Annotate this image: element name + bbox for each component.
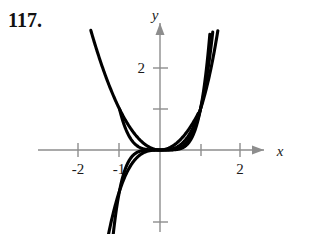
graph-figure: -2 -1 2 2 x y xyxy=(0,0,314,234)
labels-group: -2 -1 2 2 x y xyxy=(72,7,284,177)
x-tick-label--2: -2 xyxy=(72,161,85,177)
x-axis-label: x xyxy=(276,143,284,159)
axes-group xyxy=(38,23,264,232)
y-tick-label-2: 2 xyxy=(138,60,146,76)
curves-group xyxy=(91,30,218,234)
y-axis-arrowhead xyxy=(156,23,165,35)
curve-y-x-2 xyxy=(91,30,199,150)
figure-page: 117. -2 -1 2 2 xyxy=(0,0,314,234)
x-axis-arrowhead xyxy=(252,146,264,155)
y-axis-label: y xyxy=(150,7,159,23)
x-tick-label-2: 2 xyxy=(236,161,244,177)
curve-y-x-3 xyxy=(108,31,218,234)
